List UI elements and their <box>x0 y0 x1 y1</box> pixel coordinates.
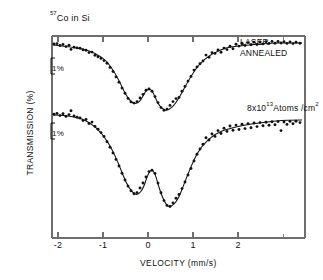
x-tick-label-zero: 0 <box>138 240 158 250</box>
x-axis-title: VELOCITY (mm/s) <box>140 258 217 268</box>
x-tick-label-neg1: -1 <box>93 240 113 250</box>
annotation-dose-units-exponent: 2 <box>315 101 319 107</box>
annotation-laser-line2: ANNEALED <box>240 48 287 59</box>
sample-title-text: Co in Si <box>57 13 90 23</box>
mossbauer-spectrum-figure: 57Co in Si TRANSMISSION (%) VELOCITY (mm… <box>0 0 323 280</box>
x-tick-label-pos1: 1 <box>183 240 203 250</box>
x-tick-label-pos2: 2 <box>228 240 248 250</box>
annotation-dose-units: Atoms /cm <box>273 103 315 113</box>
plot-frame <box>52 36 305 238</box>
annotation-laser-annealed: LASER ANNEALED <box>240 37 287 58</box>
fit-curve-implanted-dose <box>53 115 302 206</box>
annotation-implanted-dose: 8x1013Atoms /cm2 <box>247 99 319 114</box>
sample-title: 57Co in Si <box>50 10 90 23</box>
x-tick-label-neg2: -2 <box>48 240 68 250</box>
x-axis-ticks <box>58 232 283 238</box>
y-axis-title: TRANSMISSION (%) <box>25 58 35 208</box>
series-implanted-dose <box>53 109 302 208</box>
annotation-dose-mantissa: 8x10 <box>247 103 266 113</box>
annotation-laser-line1: LASER <box>240 37 287 48</box>
scale-bar-top-label: 1% <box>52 64 64 73</box>
sample-title-superscript: 57 <box>50 10 57 16</box>
scale-bar-bottom-label: 1% <box>52 129 64 138</box>
data-points-implanted-dose <box>53 109 302 208</box>
